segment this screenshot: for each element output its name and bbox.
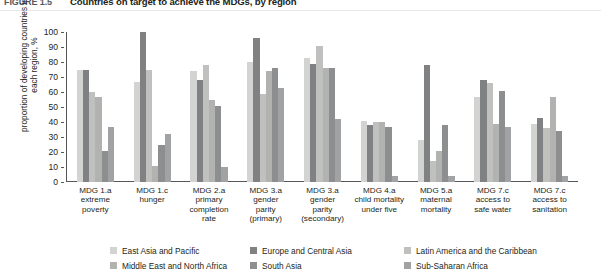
x-axis-category-line: under five xyxy=(352,205,407,214)
bar-groups-container xyxy=(67,32,578,182)
y-axis-tick-mark xyxy=(61,167,64,168)
y-axis-tick-label: 80 xyxy=(48,57,61,67)
y-axis-tick-mark xyxy=(61,182,64,183)
y-axis-tick-label: 60 xyxy=(48,87,61,97)
y-axis-tick-mark xyxy=(61,137,64,138)
legend-entry: Europe and Central Asia xyxy=(250,243,400,258)
y-axis-tick-mark xyxy=(61,47,64,48)
legend-entry: South Asia xyxy=(250,258,400,273)
y-axis-tick-mark xyxy=(61,62,64,63)
figure-header: FIGURE 1.5 Countries on target to achiev… xyxy=(0,0,601,11)
bar xyxy=(448,176,454,182)
x-axis-category-label: MDG 3.agenderparity(secondary) xyxy=(294,186,351,236)
x-axis-category-line: primary xyxy=(182,195,237,204)
x-axis-category-line: parity xyxy=(238,205,293,214)
legend-label: East Asia and Pacific xyxy=(122,246,199,256)
x-axis-category-line: hunger xyxy=(125,195,180,204)
x-axis-category-line: access to xyxy=(465,195,520,204)
bar xyxy=(385,127,391,183)
y-axis-tick-mark xyxy=(61,77,64,78)
y-axis-tick-mark xyxy=(61,107,64,108)
legend-swatch-icon xyxy=(250,247,257,254)
y-axis-tick: 50 xyxy=(38,102,64,113)
x-axis-category-line: gender xyxy=(238,195,293,204)
legend-label: South Asia xyxy=(262,261,302,271)
y-axis-tick-mark xyxy=(61,152,64,153)
bar-group xyxy=(67,32,124,182)
bar-group xyxy=(237,32,294,182)
bar-group xyxy=(464,32,521,182)
legend-swatch-icon xyxy=(250,262,257,269)
y-axis-tick: 30 xyxy=(38,132,64,143)
x-axis-category-line: MDG 1.a xyxy=(68,186,123,195)
x-axis-category-line: MDG 3.a xyxy=(295,186,350,195)
x-axis-category-line: rate xyxy=(182,214,237,223)
x-axis-category-line: access to xyxy=(522,195,577,204)
x-axis-category-line: sanitation xyxy=(522,205,577,214)
y-axis-tick-label: 10 xyxy=(48,162,61,172)
x-axis-category-label: MDG 3.agenderparity(primary) xyxy=(237,186,294,236)
y-axis-tick-label: 70 xyxy=(48,72,61,82)
y-axis-tick: 60 xyxy=(38,87,64,98)
legend-entry: East Asia and Pacific xyxy=(110,243,246,258)
y-axis-tick: 0 xyxy=(38,177,64,188)
x-axis-category-line: MDG 3.a xyxy=(238,186,293,195)
y-axis-tick-label: 0 xyxy=(53,177,61,187)
x-axis-category-line: child mortality xyxy=(352,195,407,204)
bar xyxy=(442,125,448,182)
y-axis-tick-label: 100 xyxy=(44,27,61,37)
x-axis-category-line: mortality xyxy=(409,205,464,214)
chart-legend: East Asia and PacificEurope and Central … xyxy=(110,243,580,273)
legend-entry: Sub-Saharan Africa xyxy=(404,258,580,273)
x-axis-category-line: (secondary) xyxy=(295,214,350,223)
bar xyxy=(392,176,398,182)
bar xyxy=(556,131,562,182)
x-axis-category-label: MDG 1.aextremepoverty xyxy=(67,186,124,236)
x-axis-category-label: MDG 2.aprimarycompletionrate xyxy=(181,186,238,236)
x-axis-category-line: completion xyxy=(182,205,237,214)
legend-swatch-icon xyxy=(110,262,117,269)
legend-label: Sub-Saharan Africa xyxy=(416,261,488,271)
x-axis-category-line: (primary) xyxy=(238,214,293,223)
legend-entry: Middle East and North Africa xyxy=(110,258,246,273)
y-axis-tick-mark xyxy=(61,122,64,123)
x-axis-category-line: poverty xyxy=(68,205,123,214)
x-axis-labels: MDG 1.aextremepovertyMDG 1.chungerMDG 2.… xyxy=(67,186,578,236)
x-axis-category-line: MDG 7.c xyxy=(522,186,577,195)
y-axis-tick-label: 20 xyxy=(48,147,61,157)
y-axis-tick: 70 xyxy=(38,72,64,83)
x-axis-category-line: MDG 2.a xyxy=(182,186,237,195)
x-axis-category-line: MDG 5.a xyxy=(409,186,464,195)
legend-swatch-icon xyxy=(404,247,411,254)
bar xyxy=(165,134,171,182)
y-axis-tick-label: 90 xyxy=(48,42,61,52)
y-axis-tick-mark xyxy=(61,32,64,33)
bar xyxy=(335,119,341,182)
bar xyxy=(108,127,114,183)
bar-group xyxy=(351,32,408,182)
x-axis-category-line: parity xyxy=(295,205,350,214)
x-axis-category-line: MDG 4.a xyxy=(352,186,407,195)
legend-label: Middle East and North Africa xyxy=(122,261,227,271)
x-axis-category-line: maternal xyxy=(409,195,464,204)
legend-label: Latin America and the Caribbean xyxy=(416,246,537,256)
y-axis-tick: 90 xyxy=(38,42,64,53)
x-axis-category-line: MDG 1.c xyxy=(125,186,180,195)
y-axis-tick-labels: 1009080706050403020100 xyxy=(38,26,64,188)
bar xyxy=(505,127,511,183)
y-axis-title: proportion of developing countries in ea… xyxy=(19,0,39,140)
y-axis-tick-label: 50 xyxy=(48,102,61,112)
y-axis-tick-mark xyxy=(61,92,64,93)
bar-group xyxy=(408,32,465,182)
x-axis-category-label: MDG 4.achild mortalityunder five xyxy=(351,186,408,236)
x-axis-category-line: gender xyxy=(295,195,350,204)
x-axis-category-label: MDG 5.amaternalmortality xyxy=(408,186,465,236)
legend-label: Europe and Central Asia xyxy=(262,246,352,256)
legend-entry: Latin America and the Caribbean xyxy=(404,243,580,258)
x-axis-category-line: extreme xyxy=(68,195,123,204)
y-axis-tick: 40 xyxy=(38,117,64,128)
figure-title: Countries on target to achieve the MDGs,… xyxy=(70,0,297,7)
x-axis-category-label: MDG 7.caccess tosafe water xyxy=(464,186,521,236)
y-axis-tick-label: 30 xyxy=(48,132,61,142)
legend-swatch-icon xyxy=(404,262,411,269)
